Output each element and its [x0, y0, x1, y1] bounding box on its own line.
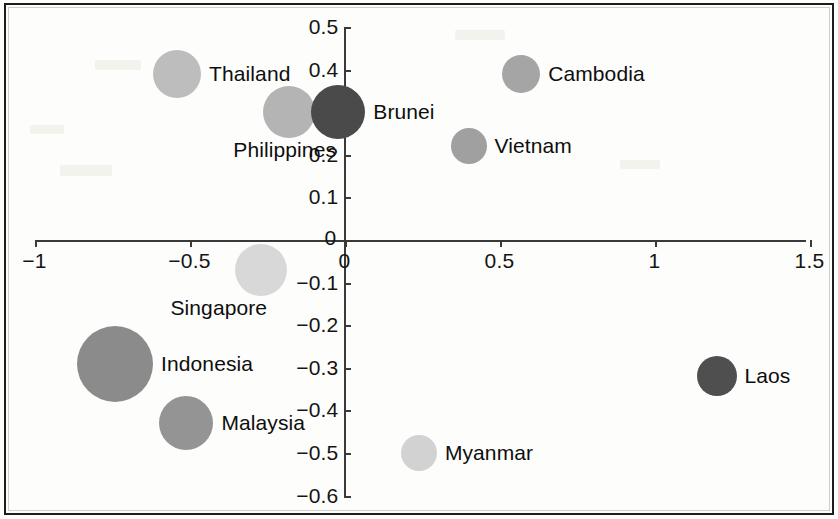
x-tick-mark: [190, 240, 192, 247]
bubble-laos[interactable]: [697, 356, 737, 396]
x-tick-label: 1: [649, 249, 661, 273]
x-axis-line: [36, 240, 806, 242]
bubble-label-thailand: Thailand: [209, 62, 290, 86]
y-tick-label: −0.1: [283, 271, 339, 295]
y-tick-label: −0.3: [283, 356, 339, 380]
bubble-brunei[interactable]: [311, 85, 365, 139]
x-tick-mark: [655, 240, 657, 247]
bubble-philippines[interactable]: [263, 86, 315, 138]
y-tick-mark: [344, 453, 351, 455]
y-tick-label: 0.1: [283, 185, 339, 209]
x-tick-mark: [35, 240, 37, 247]
bubble-label-indonesia: Indonesia: [161, 352, 253, 376]
bubble-label-singapore: Singapore: [170, 296, 267, 320]
y-tick-mark: [344, 325, 351, 327]
bubble-label-brunei: Brunei: [373, 100, 434, 124]
y-tick-label: −0.2: [283, 313, 339, 337]
bubble-chart-figure: −1−0.500.511.5 0.50.40.30.20.10−0.1−0.2−…: [0, 0, 838, 519]
bubble-label-philippines: Philippines: [233, 138, 336, 162]
x-tick-label: 1.5: [795, 249, 825, 273]
y-tick-label: 0: [315, 226, 337, 250]
x-tick-mark: [810, 240, 812, 247]
y-tick-label: −0.5: [283, 441, 339, 465]
x-tick-label: 0.5: [485, 249, 515, 273]
x-tick-mark: [500, 240, 502, 247]
y-tick-mark: [344, 27, 351, 29]
x-tick-label: −1: [22, 249, 46, 273]
y-tick-label: −0.6: [283, 484, 339, 508]
x-tick-mark: [345, 240, 347, 247]
bubble-cambodia[interactable]: [502, 55, 540, 93]
y-tick-mark: [344, 70, 351, 72]
x-tick-label: −0.5: [168, 249, 210, 273]
y-tick-mark: [344, 155, 351, 157]
y-tick-label: 0.4: [283, 58, 339, 82]
y-tick-label: 0.5: [283, 15, 339, 39]
bubble-singapore[interactable]: [235, 244, 287, 296]
bubble-label-vietnam: Vietnam: [495, 134, 572, 158]
bubble-myanmar[interactable]: [401, 435, 437, 471]
plot-area: −1−0.500.511.5 0.50.40.30.20.10−0.1−0.2−…: [0, 0, 838, 519]
bubble-label-malaysia: Malaysia: [221, 411, 305, 435]
bubble-vietnam[interactable]: [451, 128, 487, 164]
bubble-indonesia[interactable]: [77, 326, 153, 402]
y-tick-mark: [344, 368, 351, 370]
y-tick-mark: [344, 197, 351, 199]
bubble-label-laos: Laos: [745, 364, 791, 388]
y-tick-mark: [344, 283, 351, 285]
y-tick-mark: [344, 410, 351, 412]
bubble-malaysia[interactable]: [159, 396, 213, 450]
y-tick-mark: [344, 496, 351, 498]
bubble-label-myanmar: Myanmar: [445, 441, 533, 465]
x-tick-label: 0: [339, 249, 351, 273]
bubble-label-cambodia: Cambodia: [548, 62, 645, 86]
bubble-thailand[interactable]: [153, 50, 201, 98]
